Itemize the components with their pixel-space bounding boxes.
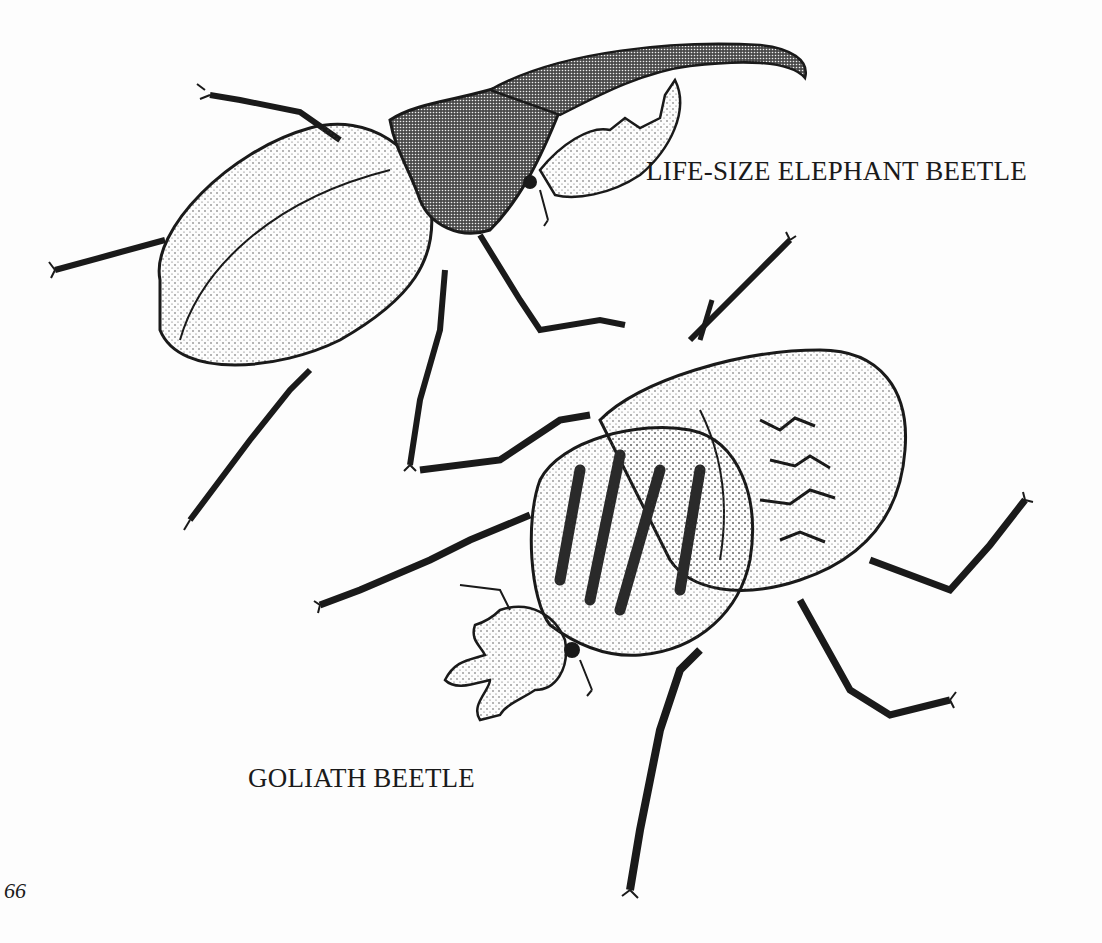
book-page: LIFE-SIZE ELEPHANT BEETLE GOLIATH BEETLE…	[0, 0, 1102, 943]
goliath-beetle-caption: GOLIATH BEETLE	[248, 763, 475, 794]
goliath-beetle-illustration	[314, 232, 1033, 898]
page-number: 66	[4, 878, 26, 904]
elephant-beetle-caption: LIFE-SIZE ELEPHANT BEETLE	[646, 156, 1027, 187]
beetle-illustrations	[0, 0, 1102, 943]
